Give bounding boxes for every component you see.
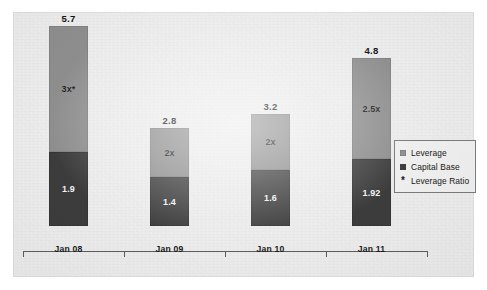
segment-capital-base-label: 1.4 [163, 197, 176, 207]
scan-surface: 5.7 3x* 1.9 Jan 08 2.8 2x [0, 0, 487, 290]
x-axis-tick [225, 251, 226, 257]
bar-stack: 2.5x 1.92 [352, 58, 391, 226]
x-axis-category-label: Jan 10 [251, 244, 290, 254]
x-axis-category-label: Jan 11 [352, 244, 391, 254]
bar-total-label: 2.8 [150, 115, 189, 126]
segment-capital-base[interactable]: 1.6 [251, 170, 290, 226]
segment-leverage[interactable]: 2.5x [352, 58, 391, 159]
legend-item-leverage-ratio[interactable]: * Leverage Ratio [400, 174, 470, 187]
legend-swatch-capital-base-icon [400, 164, 406, 170]
segment-leverage[interactable]: 2x [251, 114, 290, 170]
segment-capital-base-label: 1.92 [363, 188, 381, 198]
legend-label-leverage: Leverage [411, 148, 447, 158]
segment-capital-base-label: 1.9 [62, 184, 75, 194]
bar-group-jan-11[interactable]: 4.8 2.5x 1.92 Jan 11 [352, 58, 391, 226]
x-axis-tick [427, 251, 428, 257]
chart-panel: 5.7 3x* 1.9 Jan 08 2.8 2x [13, 12, 474, 277]
bar-group-jan-09[interactable]: 2.8 2x 1.4 Jan 09 [150, 128, 189, 226]
x-axis-category-label: Jan 08 [49, 244, 88, 254]
x-axis-tick [124, 251, 125, 257]
bar-total-label: 3.2 [251, 101, 290, 112]
legend-label-leverage-ratio: Leverage Ratio [411, 176, 469, 186]
segment-leverage-label: 2x [164, 148, 174, 158]
legend-item-capital-base[interactable]: Capital Base [400, 160, 470, 173]
segment-leverage-label: 2x [265, 137, 275, 147]
bar-group-jan-10[interactable]: 3.2 2x 1.6 Jan 10 [251, 114, 290, 226]
legend-swatch-leverage-icon [400, 150, 406, 156]
x-axis-tick [23, 251, 24, 257]
bar-stack: 2x 1.6 [251, 114, 290, 226]
bar-stack: 2x 1.4 [150, 128, 189, 226]
segment-capital-base[interactable]: 1.92 [352, 159, 391, 226]
bar-group-jan-08[interactable]: 5.7 3x* 1.9 Jan 08 [49, 26, 88, 226]
segment-leverage[interactable]: 2x [150, 128, 189, 177]
segment-leverage[interactable]: 3x* [49, 26, 88, 152]
segment-capital-base[interactable]: 1.4 [150, 177, 189, 226]
plot-area: 5.7 3x* 1.9 Jan 08 2.8 2x [13, 12, 474, 277]
bar-stack: 3x* 1.9 [49, 26, 88, 226]
segment-leverage-label: 2.5x [363, 104, 381, 114]
chart-legend: Leverage Capital Base * Leverage Ratio [394, 140, 476, 193]
x-axis-tick [326, 251, 327, 257]
segment-capital-base[interactable]: 1.9 [49, 152, 88, 226]
segment-capital-base-label: 1.6 [264, 193, 277, 203]
legend-asterisk-icon: * [400, 178, 406, 184]
bar-total-label: 5.7 [49, 13, 88, 24]
x-axis-category-label: Jan 09 [150, 244, 189, 254]
segment-leverage-label: 3x* [62, 84, 76, 94]
legend-label-capital-base: Capital Base [411, 162, 460, 172]
legend-item-leverage[interactable]: Leverage [400, 146, 470, 159]
bar-total-label: 4.8 [352, 45, 391, 56]
